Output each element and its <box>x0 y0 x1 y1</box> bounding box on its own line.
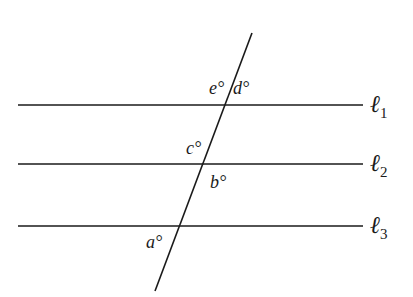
angle-label-c: c° <box>186 138 201 158</box>
line-label-l3: ℓ3 <box>370 212 388 242</box>
angle-label-e: e° <box>209 78 224 98</box>
angle-label-d: d° <box>233 78 249 98</box>
angle-label-b: b° <box>210 172 226 192</box>
parallel-lines-diagram: ℓ1 ℓ2 ℓ3 e° d° c° b° a° <box>0 0 413 297</box>
line-label-l1: ℓ1 <box>370 91 388 121</box>
transversal-line <box>155 33 252 291</box>
line-label-l2: ℓ2 <box>370 150 388 180</box>
angle-label-a: a° <box>146 232 162 252</box>
